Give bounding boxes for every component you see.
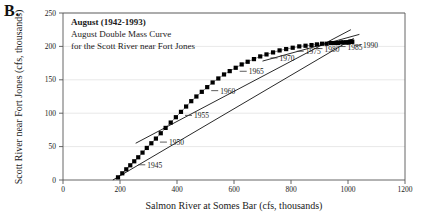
data-point-marker xyxy=(271,50,275,54)
annotation-label-1960: 1960 xyxy=(220,87,235,96)
annotation-label-1990: 1990 xyxy=(363,41,378,50)
annotation-label-1945: 1945 xyxy=(147,161,162,170)
annotation-label-1970: 1970 xyxy=(279,54,294,63)
data-point-marker xyxy=(145,146,149,150)
data-point-marker xyxy=(205,85,209,89)
annotation-label-1950: 1950 xyxy=(169,138,184,147)
data-point-marker xyxy=(154,136,158,140)
chart-title-line-2: August Double Mass Curve xyxy=(71,29,171,39)
data-point-marker xyxy=(297,44,301,48)
data-point-marker xyxy=(169,120,173,124)
data-point-marker xyxy=(278,48,282,52)
data-point-marker xyxy=(194,94,198,98)
data-point-marker xyxy=(200,90,204,94)
data-point-marker xyxy=(240,62,244,66)
y-tick-label: 150 xyxy=(45,75,57,84)
x-tick-label: 0 xyxy=(61,185,65,194)
x-tick-label: 1000 xyxy=(341,185,356,194)
panel-letter: B. xyxy=(4,2,20,20)
annotation-label-1965: 1965 xyxy=(249,67,264,76)
data-point-marker xyxy=(315,42,319,46)
data-point-marker xyxy=(291,46,295,50)
double-mass-curve-chart: 0 50 100 150 200 250 0 200 400 600 800 1… xyxy=(0,0,430,221)
x-axis-title: Salmon River at Somes Bar (cfs, thousand… xyxy=(146,200,323,212)
data-point-marker xyxy=(136,155,140,159)
x-tick-label: 400 xyxy=(171,185,183,194)
y-tick-label: 100 xyxy=(45,109,57,118)
y-tick-label: 250 xyxy=(45,9,57,18)
data-point-marker xyxy=(179,110,183,114)
data-point-marker xyxy=(284,47,288,51)
data-point-marker xyxy=(211,80,215,84)
annotation-label-1985: 1985 xyxy=(348,43,363,52)
data-point-marker xyxy=(234,66,238,70)
data-point-marker xyxy=(128,163,132,167)
annotation-label-1955: 1955 xyxy=(194,111,209,120)
x-tick-label: 600 xyxy=(228,185,240,194)
data-point-marker xyxy=(228,69,232,73)
x-axis-tick-labels: 0 200 400 600 800 1000 1200 xyxy=(61,185,413,194)
x-tick-label: 200 xyxy=(114,185,126,194)
chart-title-line-3: for the Scott River near Fort Jones xyxy=(71,41,195,51)
data-point-marker xyxy=(124,167,128,171)
y-axis-ticks xyxy=(59,13,63,180)
data-point-marker xyxy=(132,159,136,163)
data-point-marker xyxy=(116,175,120,179)
data-point-marker xyxy=(264,52,268,56)
y-axis-tick-labels: 0 50 100 150 200 250 xyxy=(45,9,57,185)
data-point-marker xyxy=(164,126,168,130)
data-point-marker xyxy=(140,151,144,155)
x-tick-label: 800 xyxy=(285,185,297,194)
y-tick-label: 0 xyxy=(52,176,56,185)
data-point-marker xyxy=(222,72,226,76)
chart-title-line-1: August (1942-1993) xyxy=(71,17,146,27)
data-point-marker xyxy=(159,131,163,135)
data-point-marker xyxy=(120,171,124,175)
x-tick-label: 1200 xyxy=(398,185,413,194)
data-point-marker xyxy=(252,57,256,61)
annotation-label-1980: 1980 xyxy=(325,45,340,54)
figure-panel-b: B. xyxy=(0,0,430,221)
data-point-marker xyxy=(258,54,262,58)
x-axis-ticks xyxy=(63,180,405,184)
data-point-marker xyxy=(246,60,250,64)
y-axis-title: Scott River near Fort Jones (cfs, thousa… xyxy=(13,10,25,185)
y-tick-label: 200 xyxy=(45,42,57,51)
data-point-marker xyxy=(184,104,188,108)
data-point-marker xyxy=(174,115,178,119)
y-tick-label: 50 xyxy=(49,142,57,151)
data-point-marker xyxy=(189,99,193,103)
data-point-marker xyxy=(216,76,220,80)
data-point-marker xyxy=(149,141,153,145)
